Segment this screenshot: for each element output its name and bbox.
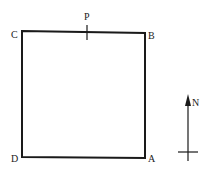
diagram-canvas: C B D A P N [0, 0, 222, 172]
label-a: A [148, 153, 156, 164]
label-b: B [148, 30, 155, 41]
label-c: C [11, 29, 18, 40]
label-d: D [11, 153, 18, 164]
label-n: N [192, 97, 199, 108]
square-abcd [22, 31, 145, 158]
label-p: P [84, 11, 90, 22]
